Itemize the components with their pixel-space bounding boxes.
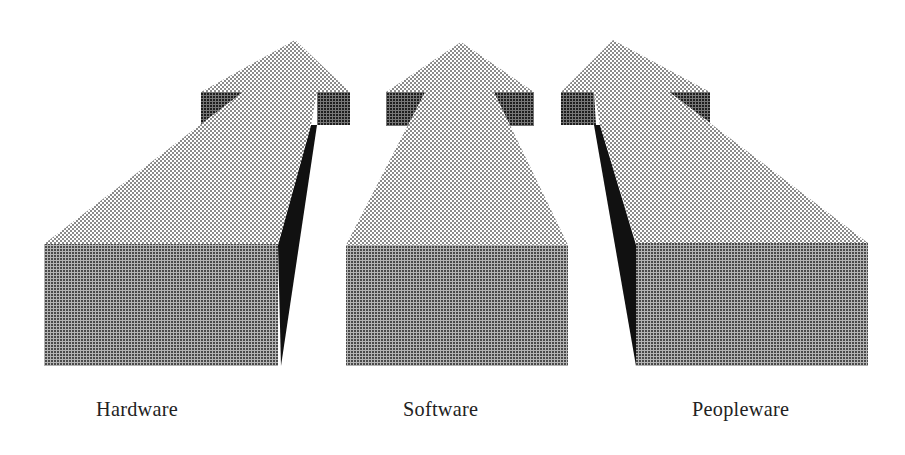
arrow-peopleware [561,40,868,366]
arrow-software-front [346,245,568,366]
arrow-hardware-top [44,40,350,245]
label-peopleware: Peopleware [692,396,789,422]
arrow-peopleware-top [561,40,868,243]
label-hardware: Hardware [96,396,178,422]
arrow-hardware [44,40,350,366]
arrow-software-top [346,42,568,245]
arrow-peopleware-head-block-left [561,92,596,125]
arrow-software [346,42,568,366]
arrow-hardware-front [44,244,278,366]
label-software: Software [403,396,478,422]
arrow-hardware-head-block-right [317,92,350,125]
arrow-peopleware-front [636,243,868,366]
three-arrows-diagram: Hardware Software Peopleware [0,0,905,455]
